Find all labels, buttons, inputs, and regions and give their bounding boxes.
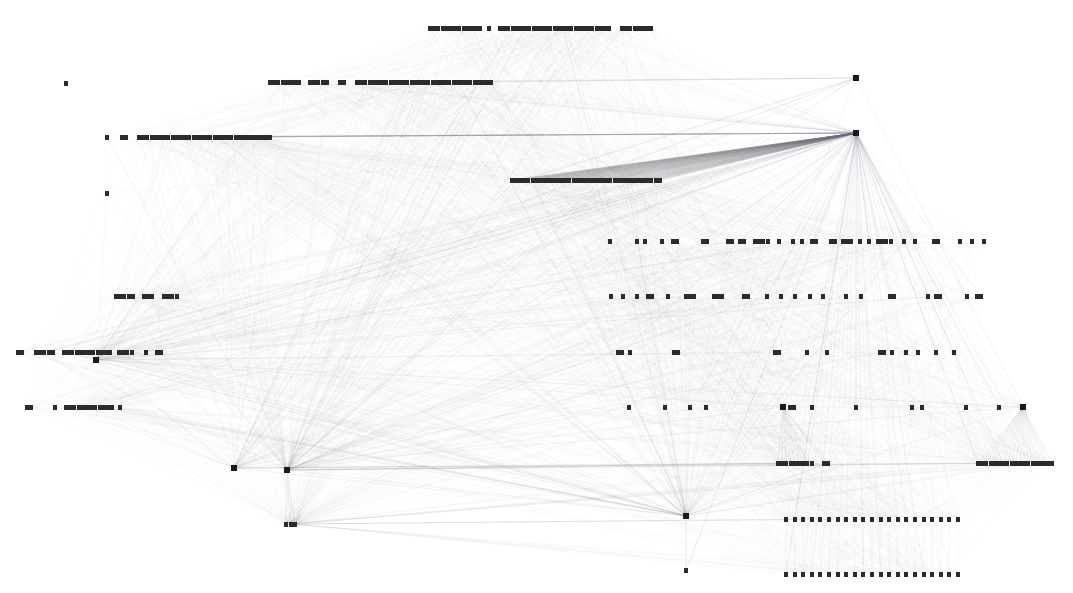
graph-node[interactable] (1031, 461, 1035, 466)
graph-node[interactable] (584, 178, 588, 183)
graph-node[interactable] (675, 239, 679, 244)
graph-node[interactable] (106, 405, 110, 410)
graph-hub-node[interactable] (231, 465, 237, 471)
graph-node[interactable] (527, 26, 531, 31)
graph-node[interactable] (934, 350, 938, 355)
graph-node[interactable] (913, 239, 917, 244)
graph-node[interactable] (904, 572, 908, 577)
graph-node[interactable] (705, 239, 709, 244)
graph-node[interactable] (861, 517, 865, 522)
graph-node[interactable] (105, 135, 109, 140)
graph-node[interactable] (1050, 461, 1054, 466)
graph-node[interactable] (773, 350, 777, 355)
graph-node[interactable] (793, 572, 797, 577)
graph-node[interactable] (692, 294, 696, 299)
graph-node[interactable] (68, 405, 72, 410)
graph-node[interactable] (600, 178, 604, 183)
graph-hub-node[interactable] (93, 357, 99, 363)
graph-node[interactable] (474, 26, 478, 31)
graph-node[interactable] (312, 80, 316, 85)
graph-node[interactable] (426, 80, 430, 85)
graph-node[interactable] (726, 239, 730, 244)
graph-node[interactable] (175, 294, 179, 299)
graph-node[interactable] (829, 239, 833, 244)
graph-node[interactable] (363, 80, 367, 85)
graph-node[interactable] (114, 294, 118, 299)
graph-node[interactable] (539, 178, 543, 183)
graph-node[interactable] (468, 80, 472, 85)
graph-node[interactable] (701, 239, 705, 244)
graph-node[interactable] (980, 461, 984, 466)
graph-node[interactable] (926, 294, 930, 299)
graph-node[interactable] (617, 178, 621, 183)
graph-node[interactable] (293, 80, 297, 85)
graph-node[interactable] (844, 517, 848, 522)
graph-node[interactable] (460, 80, 464, 85)
graph-hub-node[interactable] (853, 130, 859, 136)
graph-node[interactable] (997, 461, 1001, 466)
graph-node[interactable] (120, 135, 124, 140)
graph-node[interactable] (826, 461, 830, 466)
graph-node[interactable] (810, 239, 814, 244)
graph-node[interactable] (137, 135, 141, 140)
graph-node[interactable] (628, 26, 632, 31)
graph-node[interactable] (498, 26, 502, 31)
graph-node[interactable] (476, 80, 480, 85)
graph-node[interactable] (548, 26, 552, 31)
graph-node[interactable] (166, 135, 170, 140)
graph-node[interactable] (574, 26, 578, 31)
graph-node[interactable] (439, 80, 443, 85)
graph-node[interactable] (540, 26, 544, 31)
graph-node[interactable] (887, 517, 891, 522)
graph-node[interactable] (553, 26, 557, 31)
graph-node[interactable] (196, 135, 200, 140)
graph-node[interactable] (183, 135, 187, 140)
graph-node[interactable] (544, 26, 548, 31)
graph-node[interactable] (621, 294, 625, 299)
graph-hub-node[interactable] (1020, 404, 1026, 410)
graph-node[interactable] (643, 239, 647, 244)
graph-node[interactable] (660, 239, 664, 244)
graph-node[interactable] (166, 294, 170, 299)
graph-node[interactable] (853, 517, 857, 522)
graph-node[interactable] (878, 350, 882, 355)
graph-node[interactable] (250, 135, 254, 140)
graph-node[interactable] (175, 135, 179, 140)
graph-node[interactable] (836, 572, 840, 577)
graph-node[interactable] (293, 522, 297, 527)
graph-node[interactable] (671, 239, 675, 244)
graph-node[interactable] (85, 405, 89, 410)
graph-node[interactable] (1046, 461, 1050, 466)
graph-node[interactable] (888, 294, 892, 299)
graph-node[interactable] (989, 461, 993, 466)
graph-node[interactable] (478, 26, 482, 31)
graph-node[interactable] (414, 80, 418, 85)
graph-node[interactable] (410, 80, 414, 85)
graph-node[interactable] (997, 405, 1001, 410)
graph-node[interactable] (801, 572, 805, 577)
graph-node[interactable] (645, 26, 649, 31)
graph-node[interactable] (810, 405, 814, 410)
graph-node[interactable] (922, 572, 926, 577)
graph-node[interactable] (956, 517, 960, 522)
graph-node[interactable] (127, 294, 131, 299)
graph-node[interactable] (789, 461, 793, 466)
graph-node[interactable] (511, 26, 515, 31)
graph-node[interactable] (793, 461, 797, 466)
graph-node[interactable] (916, 350, 920, 355)
graph-node[interactable] (557, 26, 561, 31)
graph-node[interactable] (289, 522, 293, 527)
graph-node[interactable] (510, 178, 514, 183)
graph-node[interactable] (105, 191, 109, 196)
graph-node[interactable] (401, 80, 405, 85)
graph-node[interactable] (827, 517, 831, 522)
graph-node[interactable] (110, 405, 114, 410)
graph-node[interactable] (162, 135, 166, 140)
graph-node[interactable] (431, 80, 435, 85)
graph-node[interactable] (456, 80, 460, 85)
graph-node[interactable] (965, 294, 969, 299)
graph-node[interactable] (102, 405, 106, 410)
graph-node[interactable] (221, 135, 225, 140)
graph-node[interactable] (620, 26, 624, 31)
graph-node[interactable] (1035, 461, 1039, 466)
